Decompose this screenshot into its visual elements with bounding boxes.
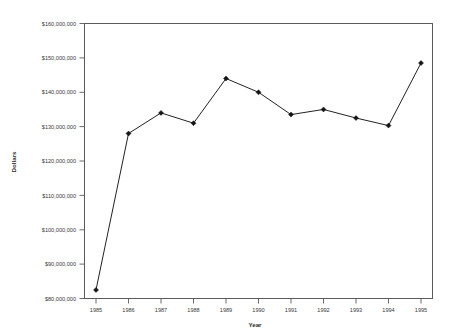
line-chart: $160,000,000 $150,000,000 $140,000,000 $… <box>0 0 451 336</box>
x-tick-label: 1985 <box>90 307 102 313</box>
y-tick-label: $150,000,000 <box>42 55 76 61</box>
x-tick-label: 1991 <box>285 307 297 313</box>
x-tick-label: 1994 <box>382 307 394 313</box>
x-tick-label: 1989 <box>220 307 232 313</box>
y-tick-label: $110,000,000 <box>42 193 76 199</box>
x-tick-label: 1995 <box>415 307 427 313</box>
y-tick-label: $140,000,000 <box>42 89 76 95</box>
chart-background <box>0 0 451 336</box>
y-tick-label: $90,000,000 <box>45 261 76 267</box>
x-tick-label: 1992 <box>317 307 329 313</box>
y-tick-label: $120,000,000 <box>42 158 76 164</box>
x-axis-title: Year <box>248 321 262 328</box>
y-tick-label: $160,000,000 <box>42 21 76 27</box>
chart-canvas: $160,000,000 $150,000,000 $140,000,000 $… <box>0 0 451 336</box>
x-tick-label: 1987 <box>155 307 167 313</box>
x-tick-label: 1990 <box>252 307 264 313</box>
y-tick-label: $100,000,000 <box>42 227 76 233</box>
y-tick-label: $130,000,000 <box>42 124 76 130</box>
x-tick-label: 1993 <box>350 307 362 313</box>
y-axis-title: Dollars <box>10 151 17 173</box>
x-tick-label: 1988 <box>187 307 199 313</box>
x-tick-label: 1986 <box>122 307 134 313</box>
y-tick-label: $80,000,000 <box>45 296 76 302</box>
